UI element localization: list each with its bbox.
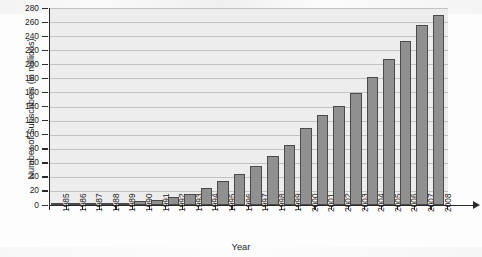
- y-tick-mark: [42, 176, 48, 177]
- y-tick-label: 260: [0, 17, 39, 27]
- bar: [350, 93, 362, 205]
- x-tick-label: 1986: [78, 172, 88, 212]
- y-tick-label: 0: [0, 200, 39, 210]
- bar: [416, 25, 428, 205]
- y-tick-label: 240: [0, 31, 39, 41]
- y-tick-mark: [42, 78, 48, 79]
- x-tick-label: 1991: [161, 172, 171, 212]
- bar: [300, 128, 312, 205]
- y-tick-mark: [42, 134, 48, 135]
- y-tick-mark: [42, 92, 48, 93]
- x-tick-label: 1989: [127, 172, 137, 212]
- bar: [250, 166, 262, 205]
- x-tick-label: 1990: [144, 172, 154, 212]
- x-tick-mark: [49, 205, 50, 210]
- x-tick-label: 1988: [111, 172, 121, 212]
- bar: [400, 41, 412, 205]
- bar: [151, 200, 163, 205]
- bar: [134, 201, 146, 205]
- x-axis-arrow-icon: [473, 201, 480, 209]
- bar: [85, 203, 97, 205]
- y-tick-label: 280: [0, 3, 39, 13]
- y-tick-mark: [42, 162, 48, 163]
- bar: [383, 59, 395, 205]
- bar: [217, 181, 229, 205]
- x-tick-label: 1987: [94, 172, 104, 212]
- y-tick-label: 140: [0, 101, 39, 111]
- bar: [317, 115, 329, 205]
- x-tick-label: 1985: [61, 172, 71, 212]
- y-tick-mark: [42, 190, 48, 191]
- y-tick-mark: [42, 205, 48, 206]
- y-tick-mark: [42, 22, 48, 23]
- gridline: [50, 22, 448, 23]
- y-tick-label: 80: [0, 143, 39, 153]
- y-tick-label: 60: [0, 157, 39, 167]
- bar: [234, 174, 246, 205]
- bar: [118, 203, 130, 205]
- y-tick-label: 200: [0, 59, 39, 69]
- bar: [367, 77, 379, 205]
- y-tick-mark: [42, 8, 48, 9]
- y-tick-label: 100: [0, 129, 39, 139]
- y-tick-label: 20: [0, 185, 39, 195]
- bar: [284, 145, 296, 206]
- bar: [68, 203, 80, 205]
- y-tick-label: 220: [0, 45, 39, 55]
- gridline: [50, 36, 448, 37]
- y-tick-label: 40: [0, 171, 39, 181]
- bar-chart-figure: Number of Subscribers (in millions) 0204…: [0, 0, 482, 257]
- y-tick-label: 160: [0, 87, 39, 97]
- bar: [333, 106, 345, 205]
- x-axis-title: Year: [0, 242, 482, 252]
- y-tick-mark: [42, 64, 48, 65]
- x-tick-label: 1992: [177, 172, 187, 212]
- gridline: [50, 50, 448, 51]
- y-tick-mark: [42, 106, 48, 107]
- bar: [51, 203, 63, 205]
- y-tick-mark: [42, 50, 48, 51]
- y-tick-label: 120: [0, 115, 39, 125]
- bar: [184, 194, 196, 205]
- bar: [101, 203, 113, 205]
- y-tick-label: 180: [0, 73, 39, 83]
- gridline: [50, 8, 448, 9]
- bar: [433, 15, 445, 205]
- bar: [168, 197, 180, 205]
- y-tick-mark: [42, 36, 48, 37]
- y-tick-mark: [42, 148, 48, 149]
- bar: [267, 156, 279, 205]
- y-tick-mark: [42, 120, 48, 121]
- bar: [201, 188, 213, 205]
